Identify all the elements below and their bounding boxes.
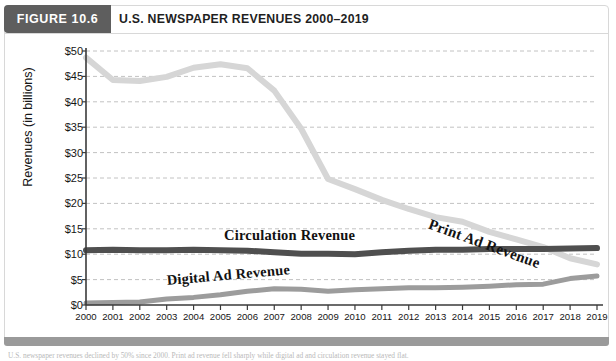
x-tick-label: 2004: [183, 311, 204, 322]
figure-footer-bar: [4, 337, 609, 346]
x-tick-label: 2012: [398, 311, 419, 322]
x-tick-label: 2010: [344, 311, 365, 322]
x-tick-label: 2011: [372, 311, 393, 322]
x-tick-label: 2005: [210, 311, 231, 322]
x-tick-label: 2016: [506, 311, 527, 322]
x-tick-label: 2009: [317, 311, 338, 322]
x-tick-label: 2015: [479, 311, 500, 322]
series-label-circulation: Circulation Revenue: [224, 227, 355, 244]
x-tick-label: 2002: [129, 311, 150, 322]
x-tick-label: 2007: [264, 311, 285, 322]
figure-caption: U.S. newspaper revenues declined by 50% …: [8, 352, 608, 360]
x-tick-label: 2014: [452, 311, 473, 322]
x-tick-label: 2008: [290, 311, 311, 322]
x-tick-label: 2017: [533, 311, 554, 322]
x-tick-label: 2001: [102, 311, 123, 322]
figure-container: FIGURE 10.6 U.S. NEWSPAPER REVENUES 2000…: [0, 0, 616, 361]
chart-plot-area: Revenues (in billions) $0$5$10$15$20$25$…: [0, 0, 616, 361]
x-tick-label: 2018: [559, 311, 580, 322]
x-tick-label: 2006: [237, 311, 258, 322]
chart-svg: [0, 0, 616, 361]
x-tick-label: 2013: [425, 311, 446, 322]
x-tick-label: 2003: [156, 311, 177, 322]
x-tick-label: 2019: [586, 311, 607, 322]
x-tick-label: 2000: [75, 311, 96, 322]
